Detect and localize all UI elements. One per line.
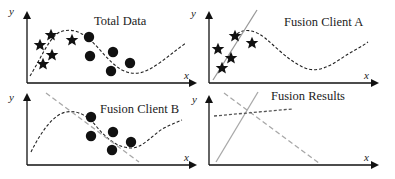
dashed-curve bbox=[237, 31, 368, 70]
dot-marker bbox=[84, 32, 94, 42]
dot-marker bbox=[108, 47, 118, 57]
star-marker-icon bbox=[212, 43, 225, 55]
y-axis-label: y bbox=[191, 93, 197, 105]
star-marker-icon bbox=[229, 30, 242, 42]
dashed-curve bbox=[31, 112, 182, 152]
dot-marker bbox=[107, 145, 117, 155]
y-axis-label: y bbox=[8, 5, 14, 17]
dot-marker bbox=[126, 137, 136, 147]
panel-title-fusion-client-a: Fusion Client A bbox=[284, 15, 363, 29]
star-marker-icon bbox=[246, 37, 259, 49]
y-axis-label: y bbox=[8, 91, 14, 103]
panel-title-total-data: Total Data bbox=[94, 14, 147, 28]
panel-title-fusion-client-b: Fusion Client B bbox=[100, 102, 179, 116]
dot-marker bbox=[108, 127, 118, 137]
star-marker-icon bbox=[66, 34, 79, 46]
dot-marker bbox=[85, 51, 95, 61]
star-marker-icon bbox=[37, 58, 50, 70]
dot-marker bbox=[86, 131, 96, 141]
x-axis-label: x bbox=[183, 151, 189, 163]
fit-line bbox=[224, 93, 319, 163]
x-axis-label: x bbox=[363, 151, 369, 163]
x-axis-label: x bbox=[363, 69, 369, 81]
star-marker-icon bbox=[46, 49, 59, 61]
panel-title-fusion-results: Fusion Results bbox=[271, 89, 345, 103]
dot-marker bbox=[125, 58, 135, 68]
star-marker-icon bbox=[45, 29, 58, 41]
x-axis-label: x bbox=[183, 69, 189, 81]
y-axis-label: y bbox=[190, 7, 196, 19]
dot-marker bbox=[106, 66, 116, 76]
fusion-diagram: xy xy xy xy Total Data Fusion Client A F… bbox=[0, 0, 395, 179]
dot-marker bbox=[86, 112, 96, 122]
star-marker-icon bbox=[34, 39, 47, 51]
